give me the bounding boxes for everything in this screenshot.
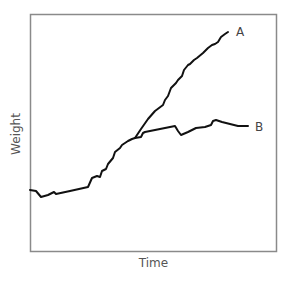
x-axis-label: Time	[0, 256, 291, 270]
series-a-line	[135, 32, 228, 138]
weight-time-chart	[0, 0, 291, 281]
series-b-label: B	[255, 120, 263, 134]
common-growth-line	[30, 138, 135, 197]
plot-frame	[31, 15, 277, 252]
series-b-line	[135, 120, 248, 138]
y-axis-label: Weight	[9, 113, 23, 155]
series-a-label: A	[236, 25, 244, 39]
